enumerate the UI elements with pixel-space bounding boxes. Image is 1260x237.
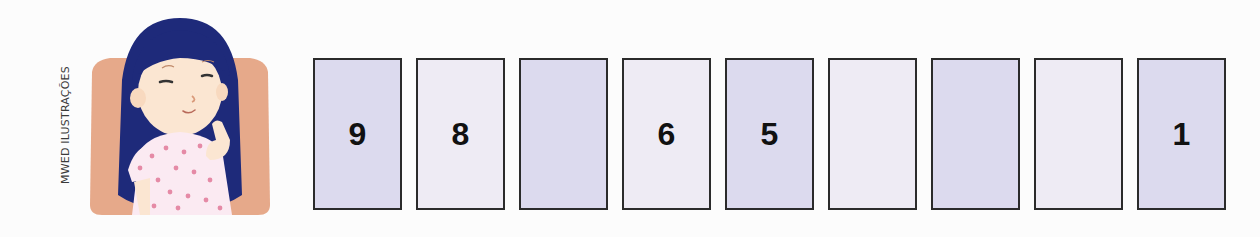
girl-thinking-icon bbox=[80, 10, 280, 225]
sequence-card-6-blank[interactable] bbox=[828, 58, 917, 210]
sequence-card-3-blank[interactable] bbox=[519, 58, 608, 210]
sequence-card-8-blank[interactable] bbox=[1034, 58, 1123, 210]
exercise-panel: MWED ILUSTRAÇÕES bbox=[0, 0, 1260, 237]
sequence-card-2: 8 bbox=[416, 58, 505, 210]
card-value: 6 bbox=[658, 118, 676, 150]
card-value: 9 bbox=[349, 118, 367, 150]
sequence-card-4: 6 bbox=[622, 58, 711, 210]
number-sequence: 9 8 6 5 1 bbox=[313, 58, 1226, 210]
card-value: 5 bbox=[761, 118, 779, 150]
illustration-credit: MWED ILUSTRAÇÕES bbox=[59, 66, 72, 184]
card-value: 8 bbox=[452, 118, 470, 150]
sequence-card-1: 9 bbox=[313, 58, 402, 210]
card-value: 1 bbox=[1173, 118, 1191, 150]
sequence-card-9: 1 bbox=[1137, 58, 1226, 210]
sequence-card-7-blank[interactable] bbox=[931, 58, 1020, 210]
girl-thinking-illustration bbox=[80, 10, 280, 225]
sequence-card-5: 5 bbox=[725, 58, 814, 210]
